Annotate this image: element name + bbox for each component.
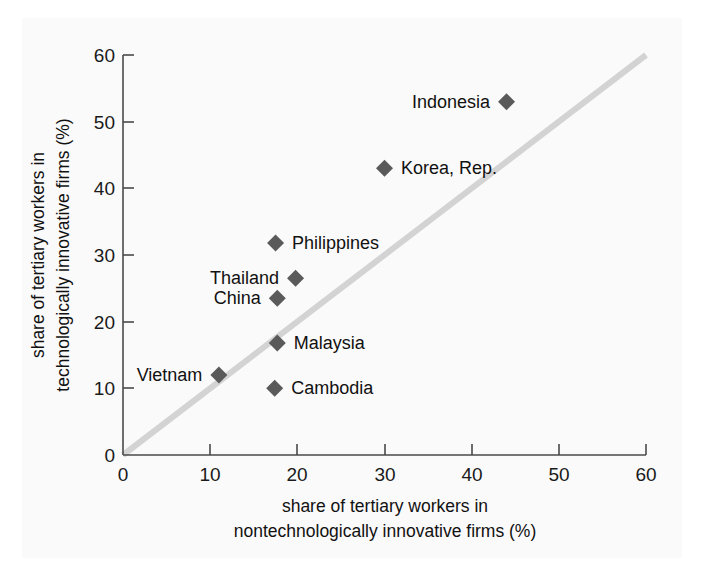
y-axis-title-line1: share of tertiary workers in — [28, 152, 48, 358]
x-tick-label-50: 50 — [548, 464, 569, 485]
data-point-label: Korea, Rep. — [401, 158, 497, 178]
x-axis-title-line1: share of tertiary workers in — [282, 496, 488, 516]
marker-diamond[interactable] — [498, 93, 515, 110]
marker-diamond[interactable] — [287, 270, 304, 287]
data-point-thailand[interactable]: Thailand — [210, 268, 304, 288]
y-tick-label-10: 10 — [94, 378, 115, 399]
y-tick-label-40: 40 — [94, 178, 115, 199]
y-axis-ticks — [123, 55, 134, 388]
data-point-label: Cambodia — [291, 378, 374, 398]
x-axis-title: share of tertiary workers in nontechnolo… — [234, 496, 537, 541]
y-tick-label-60: 60 — [94, 45, 115, 66]
y-tick-label-20: 20 — [94, 312, 115, 333]
data-point-label: Philippines — [292, 233, 379, 253]
marker-diamond[interactable] — [269, 290, 286, 307]
data-points-layer: IndonesiaKorea, Rep.PhilippinesThailandC… — [137, 92, 515, 399]
x-tick-label-0: 0 — [118, 464, 129, 485]
data-point-china[interactable]: China — [214, 288, 286, 308]
y-tick-label-30: 30 — [94, 245, 115, 266]
y-tick-labels: 60 50 40 30 20 10 0 — [94, 45, 115, 466]
marker-diamond[interactable] — [266, 380, 283, 397]
marker-diamond[interactable] — [376, 160, 393, 177]
marker-diamond[interactable] — [267, 235, 284, 252]
data-point-label: China — [214, 288, 262, 308]
x-axis-title-line2: nontechnologically innovative firms (%) — [234, 521, 537, 541]
data-point-cambodia[interactable]: Cambodia — [266, 378, 374, 398]
data-point-korea-rep[interactable]: Korea, Rep. — [376, 158, 497, 178]
data-point-label: Vietnam — [137, 365, 203, 385]
x-axis-ticks — [210, 444, 646, 455]
x-tick-label-30: 30 — [374, 464, 395, 485]
y-axis-title-line2: technologically innovative firms (%) — [53, 118, 73, 391]
y-axis-title: share of tertiary workers in technologic… — [28, 118, 73, 391]
y-tick-label-0: 0 — [104, 445, 115, 466]
data-point-label: Thailand — [210, 268, 279, 288]
x-tick-label-10: 10 — [199, 464, 220, 485]
marker-diamond[interactable] — [269, 335, 286, 352]
reference-line-45deg — [123, 55, 646, 455]
marker-diamond[interactable] — [210, 367, 227, 384]
data-point-label: Malaysia — [294, 333, 366, 353]
x-tick-labels: 0 10 20 30 40 50 60 — [118, 464, 657, 485]
x-tick-label-60: 60 — [635, 464, 656, 485]
x-tick-label-40: 40 — [461, 464, 482, 485]
scatter-plot-canvas: 60 50 40 30 20 10 0 0 10 20 30 40 50 60 … — [0, 0, 701, 575]
y-tick-label-50: 50 — [94, 112, 115, 133]
scatter-plot-figure: 60 50 40 30 20 10 0 0 10 20 30 40 50 60 … — [0, 0, 701, 575]
data-point-label: Indonesia — [412, 92, 491, 112]
data-point-indonesia[interactable]: Indonesia — [412, 92, 515, 112]
x-tick-label-20: 20 — [286, 464, 307, 485]
data-point-philippines[interactable]: Philippines — [267, 233, 379, 253]
